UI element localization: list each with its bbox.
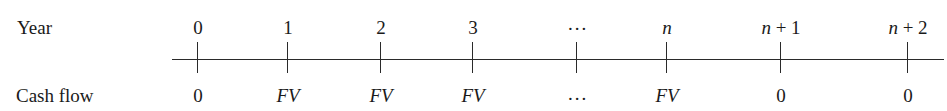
cash-flow-ellipsis: ... xyxy=(568,84,588,103)
year-row-label: Year xyxy=(17,18,52,37)
cash-flow-value: 0 xyxy=(903,86,913,105)
cash-flow-value: FV xyxy=(461,86,484,105)
cash-flow-value: FV xyxy=(655,86,678,105)
cash-flow-value: FV xyxy=(369,86,392,105)
tick-mark xyxy=(287,42,288,73)
tick-mark xyxy=(472,42,473,73)
period-label: 2 xyxy=(376,18,386,37)
period-label: 0 xyxy=(193,18,203,37)
tick-mark xyxy=(780,42,781,73)
tick-mark xyxy=(380,42,381,73)
period-label: n xyxy=(662,18,672,37)
tick-mark xyxy=(666,42,667,73)
tick-mark xyxy=(576,42,577,73)
tick-mark xyxy=(907,42,908,73)
cash-flow-value: FV xyxy=(276,86,299,105)
period-label: n + 1 xyxy=(761,18,800,37)
period-label: 3 xyxy=(468,18,478,37)
period-ellipsis: ... xyxy=(568,14,588,33)
tick-mark xyxy=(197,42,198,73)
cash-flow-value: 0 xyxy=(776,86,786,105)
cash-flow-value: 0 xyxy=(193,86,203,105)
cash-flow-row-label: Cash flow xyxy=(16,86,94,105)
period-label: 1 xyxy=(283,18,293,37)
period-label: n + 2 xyxy=(888,18,927,37)
